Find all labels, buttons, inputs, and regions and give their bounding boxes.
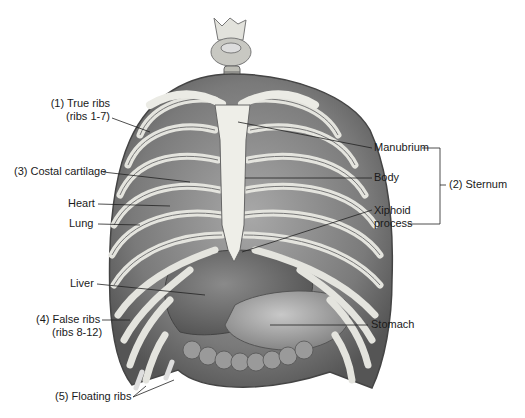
label-stomach: Stomach — [371, 318, 414, 331]
label-heart: Heart — [68, 197, 95, 210]
label-body: Body — [374, 171, 399, 184]
label-xiphoid: Xiphoid — [374, 204, 411, 217]
larynx — [211, 18, 251, 66]
label-liver: Liver — [70, 277, 94, 290]
label-manubrium: Manubrium — [374, 141, 429, 154]
ribcage-diagram: (1) True ribs (ribs 1-7) (3) Costal cart… — [0, 0, 525, 418]
label-floating-ribs: (5) Floating ribs — [55, 390, 131, 403]
label-xiphoid-process: process — [374, 217, 413, 230]
label-false-ribs: (4) False ribs — [36, 313, 100, 326]
label-lung: Lung — [69, 217, 93, 230]
label-true-ribs-range: (ribs 1-7) — [30, 110, 110, 123]
label-true-ribs: (1) True ribs — [30, 97, 110, 110]
label-false-ribs-range: (ribs 8-12) — [52, 326, 102, 339]
label-sternum: (2) Sternum — [449, 178, 507, 191]
label-costal-cartilage: (3) Costal cartilage — [14, 165, 106, 178]
